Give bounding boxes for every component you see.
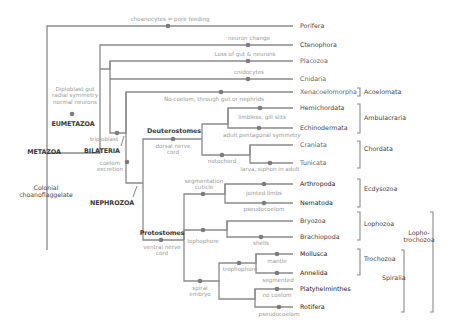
taxon-porifera: Porifera	[300, 22, 324, 29]
group-spiralia: Spiralia	[382, 274, 406, 281]
taxon-brachiopoda: Brachiopoda	[300, 233, 340, 240]
group-chordata: Chordata	[364, 145, 393, 152]
char-pseudocoelom-rotifera: pseudocoelom	[259, 311, 300, 317]
char-no-coelom-platyhelminthes: no coelom	[262, 292, 291, 298]
branch-cnidaria	[110, 61, 293, 79]
branch-nephrozoa	[126, 92, 143, 183]
char-diploblast: Diploblast gut radial symmetry normal ne…	[52, 86, 98, 105]
char-triploblast: triploblast	[90, 136, 118, 142]
tree-lines	[0, 0, 459, 331]
taxon-nematoda: Nematoda	[300, 199, 333, 206]
group-trochozoa: Trochozoa	[364, 255, 396, 262]
char-limbless: limbless, gill slits	[238, 114, 286, 120]
taxon-hemichordata: Hemichordata	[300, 104, 344, 111]
taxon-cnidaria: Cnidaria	[300, 75, 326, 82]
char-larva: larva, siphon in adult	[240, 166, 299, 172]
group-lophozoa: Lophozoa	[364, 220, 394, 227]
taxon-craniata: Craniata	[300, 141, 327, 148]
pointer-bilateria	[121, 136, 124, 146]
char-dorsal-nerve: dorsal nerve cord	[156, 143, 191, 156]
taxon-tunicata: Tunicata	[300, 159, 326, 166]
char-ventral-nerve: ventral nerve cord	[143, 244, 181, 257]
char-shells: shells	[253, 240, 269, 246]
branch-brachiopoda	[227, 221, 293, 237]
root-colonial-choanoflagellate: Colonial choanoflaggelate	[19, 184, 73, 198]
taxon-mollusca: Mollusca	[300, 250, 327, 257]
char-pentagonal: adult pentagonal symmetry	[223, 132, 301, 138]
branch-chordata	[202, 139, 293, 155]
clade-metazoa: METAZOA	[27, 149, 61, 156]
char-notochord: notochord	[208, 158, 236, 164]
clade-nephrozoa: NEPHROZOA	[90, 200, 134, 207]
char-segmentation: segmentation cuticle	[185, 178, 224, 191]
char-jointed-limbs: jointed limbs	[246, 190, 282, 196]
char-choanocytes: choanocytes = pore feeding	[130, 16, 209, 22]
char-cnidocytes: cnidocytes	[234, 69, 264, 75]
char-lophophore: lophophore	[187, 238, 219, 244]
group-ambulacraria: Ambulacraria	[364, 114, 406, 121]
taxon-platyhelminthes: Platyhelminthes	[300, 285, 351, 292]
clade-deuterostomes: Deuterostomes	[147, 128, 201, 135]
taxon-xenacoelomorpha: Xenacoelomorpha	[300, 88, 357, 95]
taxon-bryozoa: Bryozoa	[300, 217, 326, 224]
group-ecdysozoa: Ecdysozoa	[364, 185, 397, 192]
clade-bilateria: BILATERIA	[84, 148, 120, 155]
pointer-nephrozoa	[133, 186, 137, 197]
char-mantle: mantle	[267, 258, 287, 264]
char-no-coelom: No coelom, through gut or nephrids	[164, 96, 264, 102]
char-spiral-embryo: spiral embryo	[189, 285, 210, 298]
taxon-rotifera: Rotifera	[300, 303, 325, 310]
char-coelom: coelom excretion	[97, 160, 123, 173]
clade-eumetazoa: EUMETAZOA	[51, 121, 94, 128]
clade-protostomes: Protostomes	[140, 230, 185, 237]
group-acoelomata: Acoelomata	[364, 88, 401, 95]
branch-tunicata	[250, 145, 293, 163]
branch-placozoa	[100, 61, 293, 69]
taxon-placozoa: Placozoa	[300, 57, 328, 64]
char-loss-gut: Loss of gut & neurons	[214, 51, 275, 57]
char-trophophore: trophophore	[223, 266, 257, 272]
taxon-echinodermata: Echinodermata	[300, 124, 348, 131]
taxon-arthropoda: Arthropoda	[300, 180, 335, 187]
group-lophotrochozoa: Lopho- trochozoa	[403, 229, 434, 243]
char-neuron-change: neuron change	[228, 35, 270, 41]
taxon-ctenophora: Ctenophora	[300, 41, 337, 48]
taxon-annelida: Annelida	[300, 269, 328, 276]
char-segmented: segmented	[262, 277, 294, 283]
char-pseudocoelom-nematoda: pseudocoelom	[244, 206, 285, 212]
